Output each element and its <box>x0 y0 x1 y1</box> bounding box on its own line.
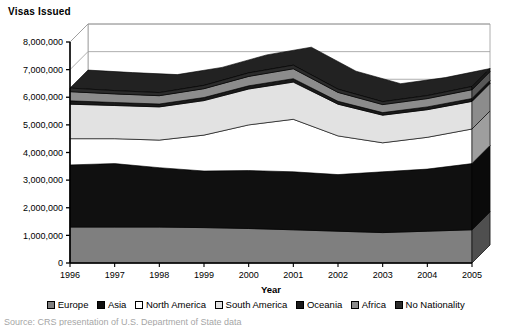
legend-swatch-icon <box>395 301 403 309</box>
x-tick-label: 2003 <box>373 270 393 280</box>
legend-item[interactable]: Africa <box>351 300 386 310</box>
legend-label: South America <box>226 300 288 310</box>
y-tick-label: 3,000,000 <box>23 175 63 185</box>
x-tick-label: 2002 <box>328 270 348 280</box>
x-tick-label: 1998 <box>149 270 169 280</box>
x-tick-label: 1999 <box>194 270 214 280</box>
legend-swatch-icon <box>351 301 359 309</box>
legend-label: No Nationality <box>406 300 465 310</box>
x-tick-label: 2004 <box>417 270 437 280</box>
legend-swatch-icon <box>135 301 143 309</box>
x-tick-label: 2001 <box>283 270 303 280</box>
legend-swatch-icon <box>97 301 105 309</box>
y-axis-ticks: 01,000,0002,000,0003,000,0004,000,0005,0… <box>23 37 70 268</box>
legend-item[interactable]: North America <box>135 300 206 310</box>
legend-item[interactable]: Asia <box>97 300 126 310</box>
chart-legend: EuropeAsiaNorth AmericaSouth AmericaOcea… <box>0 300 512 310</box>
chart-page: Visas Issued 01,000,0002,000,0003,000,00… <box>0 0 512 326</box>
y-tick-label: 6,000,000 <box>23 92 63 102</box>
source-note: Source: CRS presentation of U.S. Departm… <box>4 317 424 326</box>
y-tick-label: 1,000,000 <box>23 231 63 241</box>
legend-label: Africa <box>362 300 386 310</box>
legend-label: Asia <box>108 300 126 310</box>
legend-label: Europe <box>58 300 89 310</box>
y-tick-label: 7,000,000 <box>23 65 63 75</box>
y-tick-label: 4,000,000 <box>23 148 63 158</box>
legend-swatch-icon <box>47 301 55 309</box>
legend-swatch-icon <box>215 301 223 309</box>
legend-item[interactable]: South America <box>215 300 287 310</box>
stacked-area-chart: 01,000,0002,000,0003,000,0004,000,0005,0… <box>0 0 512 300</box>
legend-item[interactable]: Oceania <box>296 300 342 310</box>
x-axis-ticks: 1996199719981999200020012002200320042005 <box>60 263 482 280</box>
legend-label: North America <box>146 300 206 310</box>
series-end-cap <box>472 69 490 264</box>
legend-item[interactable]: Europe <box>47 300 88 310</box>
y-tick-label: 8,000,000 <box>23 37 63 47</box>
y-tick-label: 5,000,000 <box>23 120 63 130</box>
legend-swatch-icon <box>296 301 304 309</box>
y-tick-label: 2,000,000 <box>23 203 63 213</box>
x-tick-label: 2000 <box>239 270 259 280</box>
x-tick-label: 1997 <box>105 270 125 280</box>
x-tick-label: 1996 <box>60 270 80 280</box>
legend-label: Oceania <box>307 300 342 310</box>
x-axis-title: Year <box>261 284 281 295</box>
x-tick-label: 2005 <box>462 270 482 280</box>
y-tick-label: 0 <box>58 258 63 268</box>
legend-item[interactable]: No Nationality <box>395 300 465 310</box>
